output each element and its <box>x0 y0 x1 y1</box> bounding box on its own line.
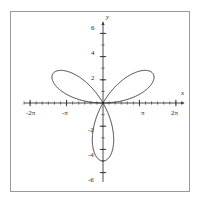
polar-rose-plot <box>0 0 203 204</box>
y-tick-label: 4 <box>91 50 95 57</box>
figure-root: -2π-ππ2π 642-2-4-6 x y <box>0 0 203 204</box>
y-tick-label: 6 <box>91 25 95 32</box>
x-tick-label: 2π <box>171 110 178 117</box>
y-tick-label: 2 <box>91 75 95 82</box>
x-tick-label: π <box>141 110 145 117</box>
x-tick-label: -π <box>62 110 68 117</box>
y-tick-label: -6 <box>88 177 94 184</box>
x-tick-label: -2π <box>26 110 35 117</box>
y-axis-label: y <box>106 14 109 21</box>
x-axis-arrow <box>181 101 184 104</box>
x-axis-label: x <box>181 90 184 97</box>
y-tick-label: -4 <box>88 152 94 159</box>
y-axis-arrow <box>101 22 104 25</box>
y-tick-label: -2 <box>88 127 94 134</box>
